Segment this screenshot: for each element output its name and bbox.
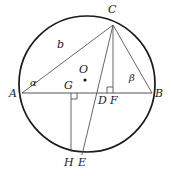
geometry-diagram: A B C O G D F H E b α β [0, 0, 171, 176]
point-label-b: B [155, 88, 163, 99]
point-label-a: A [9, 88, 17, 99]
right-angle-mark-f [107, 87, 113, 93]
circumcircle [19, 16, 155, 152]
geometry-canvas [0, 0, 171, 176]
point-label-f: F [110, 95, 118, 106]
point-label-g: G [64, 80, 73, 91]
center-point-dot [83, 78, 86, 81]
point-label-h: H [64, 157, 74, 168]
angle-label-beta: β [129, 73, 135, 83]
point-label-d: D [98, 95, 107, 106]
right-angle-mark-g [71, 93, 77, 99]
point-label-o: O [79, 64, 88, 75]
point-label-e: E [78, 157, 86, 168]
point-label-c: C [108, 4, 116, 15]
side-label-b: b [57, 39, 64, 50]
angle-label-alpha: α [30, 78, 37, 88]
